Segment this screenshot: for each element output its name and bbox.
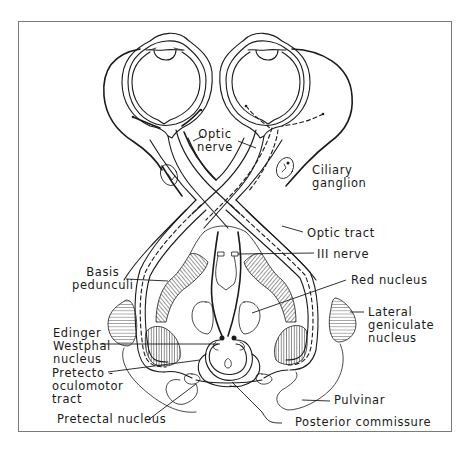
label-pretecto-oculomotor-tract: Pretecto - oculomotor tract <box>52 367 123 406</box>
basis-pedunculi-left <box>156 253 208 322</box>
label-optic-nerve: Optic nerve <box>197 128 233 154</box>
label-posterior-commissure: Posterior commissure <box>295 416 431 429</box>
label-lateral-geniculate-nucleus: Lateral geniculate nucleus <box>368 306 434 345</box>
peduncle-vertical-hatch-right <box>274 326 307 365</box>
lateral-geniculate-left <box>108 300 137 346</box>
peduncle-vertical-hatch-left <box>145 326 180 366</box>
lateral-geniculate-right <box>329 298 356 342</box>
label-basis-pedunculi: Basis pedunculi <box>72 266 134 292</box>
label-red-nucleus: Red nucleus <box>351 274 428 287</box>
label-iii-nerve: III nerve <box>317 248 369 261</box>
label-edinger-westphal-nucleus: Edinger Westphal nucleus <box>53 327 111 366</box>
label-pulvinar: Pulvinar <box>334 394 385 407</box>
basis-pedunculi-right <box>244 253 296 322</box>
label-pretectal-nucleus: Pretectal nucleus <box>57 413 166 426</box>
left-eye <box>104 33 212 170</box>
label-ciliary-ganglion: Ciliary ganglion <box>312 164 366 190</box>
label-optic-tract: Optic tract <box>307 227 375 240</box>
